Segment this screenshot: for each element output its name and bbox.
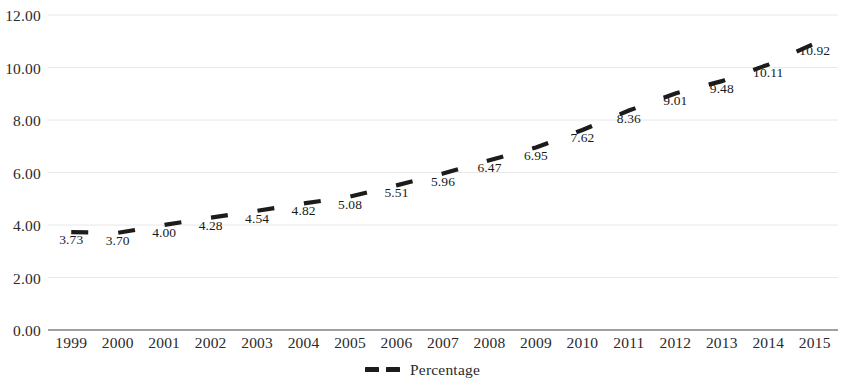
chart-legend: Percentage [0, 362, 845, 378]
data-point-label: 4.54 [245, 212, 269, 226]
x-tick-label: 2013 [699, 335, 745, 351]
data-point-label: 3.70 [106, 234, 130, 248]
data-point-label: 10.11 [753, 66, 783, 80]
x-tick-label: 2000 [94, 335, 140, 351]
data-point-label: 9.01 [663, 94, 687, 108]
data-point-label: 4.28 [199, 219, 223, 233]
series-percentage-line [71, 43, 815, 233]
legend-dashed-line-marker [365, 367, 401, 372]
data-point-label: 4.00 [152, 226, 176, 240]
x-tick-label: 2005 [327, 335, 373, 351]
series-line [71, 43, 815, 233]
data-point-label: 9.48 [710, 82, 734, 96]
data-point-label: 5.96 [431, 175, 455, 189]
y-tick-label: 0.00 [0, 323, 41, 339]
x-tick-label: 2014 [745, 335, 791, 351]
y-tick-label: 4.00 [0, 218, 41, 234]
x-tick-label: 2008 [466, 335, 512, 351]
data-point-label: 4.82 [292, 204, 316, 218]
x-tick-label: 2009 [513, 335, 559, 351]
data-point-label: 6.47 [477, 161, 501, 175]
chart-plot-area [0, 0, 845, 388]
x-tick-label: 2003 [234, 335, 280, 351]
x-tick-label: 2007 [420, 335, 466, 351]
x-tick-label: 2011 [606, 335, 652, 351]
data-point-label: 8.36 [617, 112, 641, 126]
x-tick-label: 2001 [141, 335, 187, 351]
x-tick-label: 2002 [187, 335, 233, 351]
x-tick-label: 2010 [559, 335, 605, 351]
x-tick-label: 2015 [792, 335, 838, 351]
data-point-label: 10.92 [799, 44, 830, 58]
y-tick-label: 12.00 [0, 8, 41, 24]
data-point-label: 7.62 [570, 131, 594, 145]
y-tick-label: 8.00 [0, 113, 41, 129]
data-point-label: 5.51 [385, 186, 409, 200]
y-tick-label: 2.00 [0, 271, 41, 287]
data-point-label: 5.08 [338, 198, 362, 212]
x-tick-label: 1999 [48, 335, 94, 351]
legend-label-percentage: Percentage [410, 362, 480, 378]
x-tick-label: 2012 [652, 335, 698, 351]
y-tick-label: 10.00 [0, 61, 41, 77]
data-point-label: 3.73 [59, 233, 83, 247]
line-chart: 0.002.004.006.008.0010.0012.00 199920002… [0, 0, 845, 388]
x-tick-label: 2004 [280, 335, 326, 351]
data-point-label: 6.95 [524, 149, 548, 163]
x-tick-label: 2006 [373, 335, 419, 351]
y-tick-label: 6.00 [0, 166, 41, 182]
